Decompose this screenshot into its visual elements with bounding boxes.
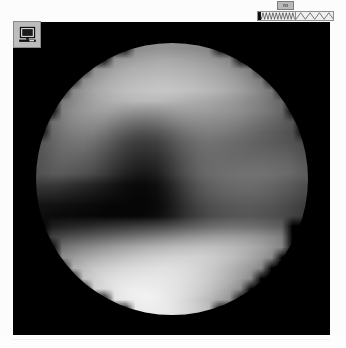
waveform-cursor[interactable] — [258, 12, 261, 20]
dense-waveform[interactable] — [258, 12, 296, 20]
footer-divider — [13, 339, 330, 340]
sphere-image — [36, 43, 308, 315]
waveform-widget[interactable] — [257, 11, 334, 21]
image-canvas[interactable] — [13, 22, 330, 335]
monitor-icon — [18, 26, 37, 44]
sparse-waveform-icon — [296, 12, 334, 20]
sparse-waveform[interactable] — [296, 12, 334, 20]
app-root: m — [0, 0, 346, 348]
display-settings-button[interactable] — [13, 21, 41, 48]
waveform-label: m — [277, 1, 294, 10]
footer-strip — [0, 335, 346, 348]
sphere-heatmap-canvas — [36, 43, 308, 315]
dense-waveform-icon — [258, 12, 295, 20]
